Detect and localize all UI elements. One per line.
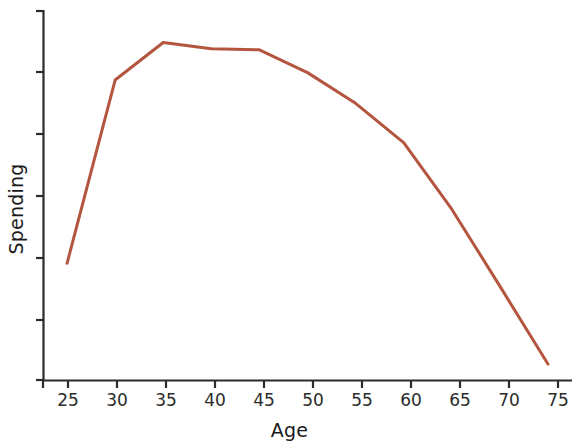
x-axis-title: Age — [0, 419, 579, 441]
x-tick-label: 70 — [489, 390, 529, 410]
x-tick-label: 60 — [391, 390, 431, 410]
chart-figure: Spending Age 25 30 35 40 45 50 55 60 65 … — [0, 0, 579, 446]
spending-line-series — [67, 42, 548, 364]
y-axis-ticks — [36, 11, 43, 380]
x-tick-label: 50 — [293, 390, 333, 410]
x-tick-label: 45 — [244, 390, 284, 410]
y-axis-title: Spending — [5, 149, 27, 269]
line-chart-canvas — [0, 0, 579, 446]
x-tick-label: 35 — [146, 390, 186, 410]
x-tick-label: 55 — [342, 390, 382, 410]
x-tick-label: 40 — [195, 390, 235, 410]
x-tick-label: 65 — [440, 390, 480, 410]
x-tick-label: 75 — [538, 390, 578, 410]
x-tick-label: 30 — [97, 390, 137, 410]
x-tick-label: 25 — [48, 390, 88, 410]
